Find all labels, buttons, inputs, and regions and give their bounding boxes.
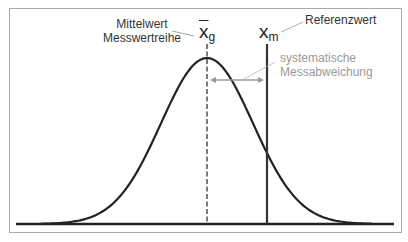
bias-label: systematische Messabweichung: [280, 52, 373, 78]
reference-label-leader: [281, 22, 303, 32]
mean-label-line2: Messwertreihe: [100, 32, 184, 44]
bias-label-line2: Messabweichung: [280, 66, 373, 78]
mean-symbol-subscript: g: [209, 30, 216, 44]
mean-label-line1: Mittelwert: [100, 18, 184, 30]
bias-label-line1: systematische: [280, 52, 373, 64]
mean-label: Mittelwert Messwertreihe: [100, 18, 184, 44]
reference-symbol: xm: [259, 22, 279, 43]
reference-label: Referenzwert: [305, 14, 376, 26]
reference-symbol-x: x: [259, 21, 269, 42]
reference-symbol-subscript: m: [269, 30, 279, 44]
deviation-arrow: [210, 77, 264, 83]
normal-distribution-curve: [40, 58, 372, 224]
mean-symbol-x: x: [199, 21, 209, 42]
mean-symbol: xg: [199, 22, 215, 43]
